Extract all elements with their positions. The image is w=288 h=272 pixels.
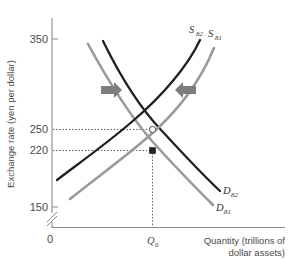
curve-label-demand-81-main: D — [215, 202, 224, 213]
y-tick-label-150: 150 — [30, 201, 48, 213]
x-equilibrium-label: Q 0 — [147, 235, 159, 249]
curve-label-demand-81-sub: 81 — [224, 208, 231, 216]
origin-label: 0 — [47, 233, 53, 245]
curve-label-demand-82-main: D — [222, 185, 231, 196]
x-axis-title-line2: dollar assets) — [229, 247, 286, 258]
y-tick-label-250: 250 — [30, 123, 48, 135]
axes-group — [47, 18, 285, 228]
curve-label-supply-82-sub: 82 — [196, 30, 204, 38]
curve-label-supply-82-main: S — [189, 24, 195, 35]
curve-label-supply-81-main: S — [208, 28, 214, 39]
exchange-rate-supply-demand-chart: 350 250 220 150 0 — [0, 0, 288, 272]
curve-label-supply-82: S 82 — [189, 24, 204, 38]
curve-demand-82 — [103, 41, 220, 191]
x-equilibrium-label-sub: 0 — [155, 241, 159, 249]
curve-label-demand-81: D 81 — [215, 202, 231, 216]
curve-demand-81 — [88, 44, 213, 205]
equilibrium-marker-220 — [149, 147, 156, 154]
curve-label-supply-81: S 81 — [208, 28, 222, 42]
curve-supply-81 — [70, 48, 214, 199]
y-tick-label-350: 350 — [30, 33, 48, 45]
curve-label-supply-81-sub: 81 — [215, 34, 222, 42]
y-axis-title: Exchange rate (yen per dollar) — [5, 60, 16, 188]
y-tick-label-220: 220 — [30, 144, 48, 156]
chart-canvas: 350 250 220 150 0 — [0, 0, 288, 272]
x-axis-title-line1: Quantity (trillions of — [204, 235, 286, 246]
curve-label-demand-82-sub: 82 — [231, 191, 239, 199]
x-equilibrium-label-main: Q — [147, 235, 155, 246]
y-ticks-group: 350 250 220 150 0 — [30, 33, 58, 245]
equilibrium-marker-250 — [149, 126, 155, 132]
curve-label-demand-82: D 82 — [222, 185, 239, 199]
